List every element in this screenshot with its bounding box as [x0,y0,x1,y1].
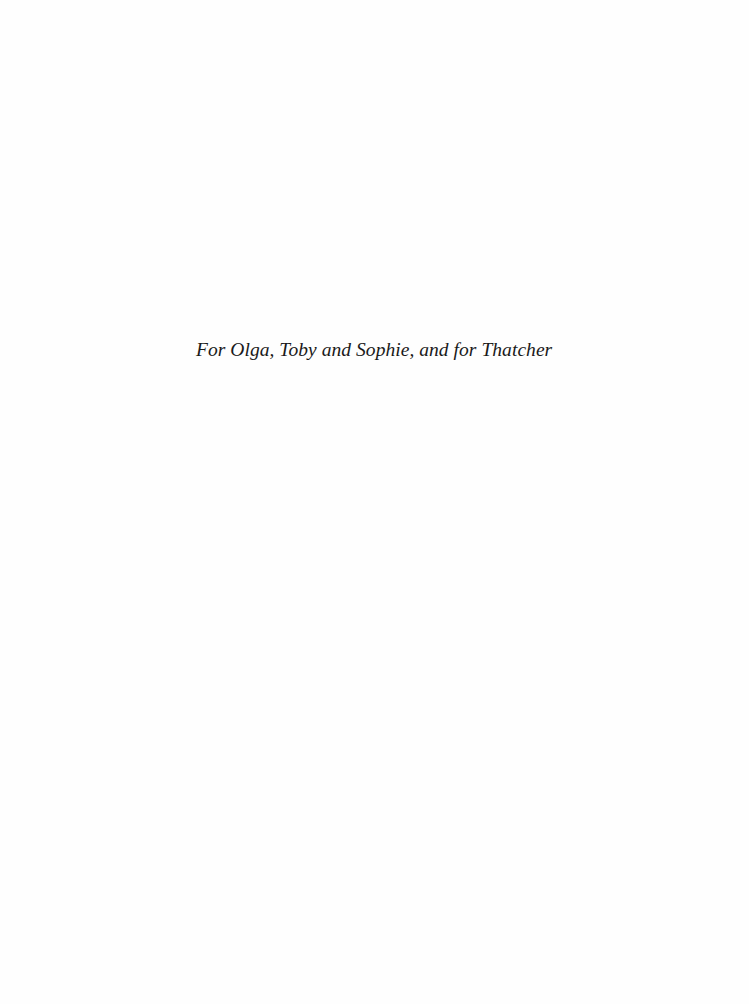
dedication-text: For Olga, Toby and Sophie, and for Thatc… [196,338,552,362]
book-page: For Olga, Toby and Sophie, and for Thatc… [0,0,749,1004]
